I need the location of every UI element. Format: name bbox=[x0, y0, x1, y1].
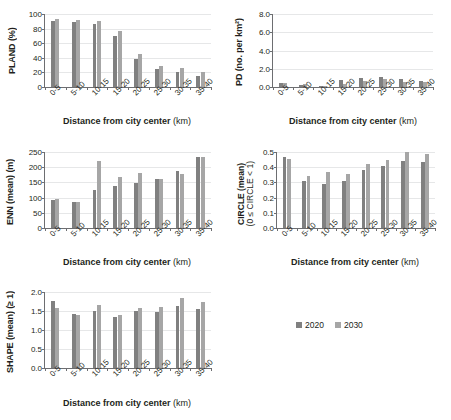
x-tick-mark bbox=[396, 228, 397, 231]
x-tick-mark bbox=[353, 87, 354, 90]
gridline bbox=[45, 213, 211, 214]
bar-2030-10-15 bbox=[97, 305, 101, 368]
gridline bbox=[45, 198, 211, 199]
panel-pd: PD (no. per km²) 0.02.04.06.08.00-55-101… bbox=[230, 0, 451, 135]
x-tick-mark bbox=[317, 228, 318, 231]
x-tick-mark bbox=[211, 368, 212, 371]
bar-2030-20-25 bbox=[366, 164, 370, 228]
gridline bbox=[45, 292, 211, 293]
y-tick-mark bbox=[42, 152, 45, 153]
gridline bbox=[45, 72, 211, 73]
bar-2030-20-25 bbox=[138, 308, 142, 368]
chart-legend: 2020 2030 bbox=[296, 320, 363, 330]
gridline bbox=[45, 182, 211, 183]
enn-x-axis-title: Distance from city center (km) bbox=[32, 257, 222, 267]
pland-y-axis-title: PLAND (%) bbox=[8, 12, 20, 90]
bar-2030-35-40 bbox=[201, 157, 205, 228]
bar-2020-10-15 bbox=[93, 24, 97, 87]
bar-2020-15-20 bbox=[113, 317, 117, 368]
gridline bbox=[277, 167, 435, 168]
legend-label-2020: 2020 bbox=[305, 320, 324, 330]
bar-2020-35-40 bbox=[196, 309, 200, 368]
gridline bbox=[45, 349, 211, 350]
legend-swatch-2030 bbox=[335, 322, 341, 328]
x-tick-mark bbox=[128, 87, 129, 90]
x-tick-mark bbox=[376, 228, 377, 231]
x-tick-mark bbox=[313, 87, 314, 90]
multi-panel-bar-chart-figure: PLAND (%) 0204060801000-55-1010-1515-202… bbox=[0, 0, 451, 420]
y-tick-mark bbox=[42, 14, 45, 15]
pd-y-axis-title-text: PD (no. per km²) bbox=[234, 18, 244, 86]
bar-2030-5-10 bbox=[76, 20, 80, 87]
x-tick-mark bbox=[336, 228, 337, 231]
y-tick-mark bbox=[42, 330, 45, 331]
x-tick-mark bbox=[45, 228, 46, 231]
bar-2020-30-35 bbox=[176, 306, 180, 368]
panel-pland: PLAND (%) 0204060801000-55-1010-1515-202… bbox=[0, 0, 230, 135]
bar-2030-35-40 bbox=[425, 154, 429, 228]
shape-plot-area: 0.00.51.01.52.00-55-1010-1515-2020-2525-… bbox=[44, 292, 211, 369]
x-tick-mark bbox=[107, 87, 108, 90]
y-tick-mark bbox=[274, 198, 277, 199]
x-tick-mark bbox=[45, 368, 46, 371]
shape-y-axis-title: SHAPE (mean) (≥ 1) bbox=[6, 288, 18, 376]
bar-2030-25-30 bbox=[159, 307, 163, 368]
bar-2020-0-5 bbox=[51, 301, 55, 368]
x-tick-mark bbox=[413, 87, 414, 90]
circle-plot-area: 0.00.10.20.30.40.50-55-1010-1515-2020-25… bbox=[276, 152, 435, 229]
y-tick-mark bbox=[270, 14, 273, 15]
bar-2030-0-5 bbox=[55, 308, 59, 368]
bar-2020-20-25 bbox=[134, 183, 138, 228]
y-tick-mark bbox=[270, 51, 273, 52]
gridline bbox=[277, 152, 435, 153]
gridline bbox=[45, 43, 211, 44]
circle-y-axis-title: CIRCLE (mean) (0 ≤ CIRCLE < 1) bbox=[234, 148, 258, 240]
bar-2020-0-5 bbox=[51, 21, 55, 87]
shape-x-axis-title-unit: (km) bbox=[173, 398, 191, 408]
shape-x-axis-title-main: Distance from city center bbox=[63, 398, 173, 408]
x-tick-mark bbox=[356, 228, 357, 231]
enn-x-axis-title-unit: (km) bbox=[173, 257, 191, 267]
gridline bbox=[277, 198, 435, 199]
x-tick-mark bbox=[149, 368, 150, 371]
y-tick-mark bbox=[274, 167, 277, 168]
x-tick-mark bbox=[277, 228, 278, 231]
pd-x-axis-title-unit: (km) bbox=[399, 116, 417, 126]
shape-x-axis-title: Distance from city center (km) bbox=[32, 398, 222, 408]
bar-2030-35-40 bbox=[201, 302, 205, 368]
x-tick-mark bbox=[149, 228, 150, 231]
gridline bbox=[45, 152, 211, 153]
enn-y-axis-title: ENN (mean) (m) bbox=[6, 150, 18, 234]
pd-y-axis-title: PD (no. per km²) bbox=[235, 12, 247, 92]
circle-y-axis-title-unit: (0 ≤ CIRCLE < 1) bbox=[246, 161, 255, 226]
bar-2020-5-10 bbox=[72, 314, 76, 368]
panel-enn: ENN (mean) (m) 0501001502002500-55-1010-… bbox=[0, 138, 230, 276]
bar-2020-5-10 bbox=[72, 22, 76, 87]
x-tick-mark bbox=[107, 228, 108, 231]
x-tick-mark bbox=[433, 87, 434, 90]
y-tick-mark bbox=[42, 182, 45, 183]
pland-plot-area: 0204060801000-55-1010-1515-2020-2525-303… bbox=[44, 14, 211, 88]
pd-x-axis-title: Distance from city center (km) bbox=[258, 116, 448, 126]
y-tick-mark bbox=[42, 198, 45, 199]
x-tick-mark bbox=[170, 228, 171, 231]
bar-2030-10-15 bbox=[97, 161, 101, 228]
x-tick-mark bbox=[128, 368, 129, 371]
x-tick-mark bbox=[107, 368, 108, 371]
x-tick-mark bbox=[149, 87, 150, 90]
x-tick-mark bbox=[333, 87, 334, 90]
gridline bbox=[277, 213, 435, 214]
x-tick-mark bbox=[190, 368, 191, 371]
bar-2020-10-15 bbox=[93, 311, 97, 368]
bar-2020-25-30 bbox=[155, 312, 159, 368]
bar-2030-0-5 bbox=[55, 19, 59, 87]
y-tick-mark bbox=[42, 29, 45, 30]
pd-x-axis-title-main: Distance from city center bbox=[289, 116, 399, 126]
legend-entry-2030: 2030 bbox=[335, 320, 363, 330]
gridline bbox=[277, 182, 435, 183]
bar-2020-15-20 bbox=[113, 36, 117, 87]
enn-plot-area: 0501001502002500-55-1010-1515-2020-2525-… bbox=[44, 152, 211, 229]
x-tick-label: 5-10 bbox=[296, 80, 314, 98]
enn-x-axis-title-main: Distance from city center bbox=[63, 257, 173, 267]
x-tick-mark bbox=[415, 228, 416, 231]
